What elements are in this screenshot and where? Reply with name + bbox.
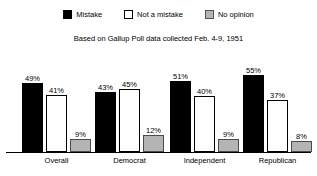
bar-group: 51%40%9% [170,56,239,152]
bar-not-a-mistake: 41% [46,95,67,152]
legend-item-mistake: Mistake [63,10,102,19]
bar-no-opinion: 9% [218,139,239,152]
bar-mistake: 43% [95,92,116,152]
bar-not-a-mistake: 40% [194,96,215,152]
bar-value-label: 12% [146,126,161,135]
x-axis-label-overall: Overall [45,156,69,165]
bar-no-opinion: 9% [70,139,91,152]
bar-value-label: 40% [197,87,212,96]
chart-legend: Mistake Not a mistake No opinion [0,6,317,22]
bar-value-label: 43% [98,83,113,92]
x-axis-label-independent: Independent [184,156,226,165]
x-axis-line [6,152,311,153]
bar-mistake: 51% [170,81,191,152]
bar-value-label: 55% [246,66,261,75]
bar-not-a-mistake: 37% [267,100,288,152]
bar-value-label: 8% [296,132,307,141]
bar-value-label: 51% [173,72,188,81]
legend-swatch-mistake-icon [63,10,72,19]
x-axis-tick-labels: OverallDemocratIndependentRepublican [0,156,317,170]
x-axis-label-democrat: Democrat [113,156,146,165]
bar-value-label: 45% [122,80,137,89]
bar-value-label: 41% [49,86,64,95]
bar-mistake: 55% [243,75,264,152]
bar-group: 43%45%12% [95,56,164,152]
bar-value-label: 37% [270,91,285,100]
chart-subtitle: Based on Gallup Poll data collected Feb.… [0,34,317,43]
bar-mistake: 49% [22,83,43,152]
bar-no-opinion: 12% [143,135,164,152]
bar-group: 49%41%9% [22,56,91,152]
bar-value-label: 49% [25,74,40,83]
legend-swatch-not-a-mistake-icon [124,10,133,19]
legend-item-not-a-mistake: Not a mistake [124,10,183,19]
legend-label-no-opinion: No opinion [218,10,254,19]
bar-chart: Mistake Not a mistake No opinion Based o… [0,0,317,176]
legend-label-not-a-mistake: Not a mistake [137,10,183,19]
bar-group: 55%37%8% [243,56,312,152]
bar-value-label: 9% [75,130,86,139]
plot-area: 49%41%9%43%45%12%51%40%9%55%37%8% [0,56,317,153]
bar-value-label: 9% [223,130,234,139]
x-axis-label-republican: Republican [259,156,297,165]
legend-item-no-opinion: No opinion [205,10,254,19]
legend-label-mistake: Mistake [76,10,102,19]
legend-swatch-no-opinion-icon [205,10,214,19]
bar-not-a-mistake: 45% [119,89,140,152]
bar-no-opinion: 8% [291,141,312,152]
